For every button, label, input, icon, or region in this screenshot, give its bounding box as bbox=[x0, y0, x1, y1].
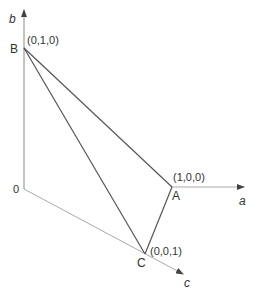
vertex-c-coords: (0,0,1) bbox=[150, 245, 182, 257]
edge-AC bbox=[145, 187, 172, 254]
origin-label: 0 bbox=[13, 183, 19, 195]
c-axis bbox=[24, 189, 183, 274]
c-axis-label: c bbox=[184, 276, 190, 290]
vertex-b-coords: (0,1,0) bbox=[27, 34, 59, 46]
edge-BA bbox=[24, 48, 172, 187]
vertex-a-label: A bbox=[172, 189, 180, 203]
vertex-b-label: B bbox=[10, 42, 18, 56]
vertex-c-label: C bbox=[137, 256, 146, 270]
vertex-a-coords: (1,0,0) bbox=[173, 171, 205, 183]
ternary-plane-diagram: b a c 0 B (0,1,0) A (1,0,0) C (0,0,1) bbox=[0, 0, 257, 299]
b-axis-label: b bbox=[9, 12, 16, 26]
edge-BC bbox=[24, 48, 145, 254]
a-axis-label: a bbox=[239, 194, 246, 208]
